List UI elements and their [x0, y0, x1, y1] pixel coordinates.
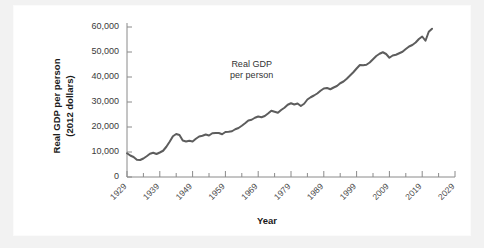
y-tick-label: 50,000	[91, 46, 119, 56]
chart-card: 010,00020,00030,00040,00050,00060,000 19…	[14, 6, 470, 235]
annotation-label-line2: per person	[230, 70, 273, 80]
y-tick-label: 0	[114, 171, 119, 181]
y-tick-label: 20,000	[91, 121, 119, 131]
x-tick-label: 1939	[141, 181, 162, 202]
y-tick-label: 60,000	[91, 21, 119, 31]
series-group	[127, 29, 432, 160]
chart-plot-area: 010,00020,00030,00040,00050,00060,000 19…	[14, 6, 470, 235]
y-axis-title: Real GDP per person (2012 dollars)	[51, 58, 75, 153]
data-line-real-gdp-per-person	[127, 29, 432, 160]
axes-group	[127, 23, 455, 177]
gdp-line-chart: 010,00020,00030,00040,00050,00060,000 19…	[14, 6, 470, 235]
x-tick-label: 1999	[338, 181, 359, 202]
x-tick-label: 1969	[239, 181, 260, 202]
x-tick-label: 1979	[272, 181, 293, 202]
y-axis-title-line1: Real GDP per person	[51, 58, 62, 153]
y-tick-labels: 010,00020,00030,00040,00050,00060,000	[91, 21, 119, 181]
x-tick-label: 1949	[174, 181, 195, 202]
y-axis-title-line2: (2012 dollars)	[64, 75, 75, 136]
annotation-label-line1: Real GDP	[231, 59, 272, 69]
x-axis-title: Year	[257, 215, 277, 226]
x-tick-label: 1959	[206, 181, 227, 202]
y-tick-label: 10,000	[91, 146, 119, 156]
x-tick-label: 2019	[403, 181, 424, 202]
x-tick-label: 2009	[370, 181, 391, 202]
x-tick-label: 2029	[436, 181, 457, 202]
x-tick-label: 1989	[305, 181, 326, 202]
annotation-group: Real GDPper person	[230, 59, 273, 80]
y-tick-label: 40,000	[91, 71, 119, 81]
x-tick-label: 1929	[108, 181, 129, 202]
x-tick-labels: 1929193919491959196919791989199920092019…	[108, 181, 457, 202]
y-tick-label: 30,000	[91, 96, 119, 106]
